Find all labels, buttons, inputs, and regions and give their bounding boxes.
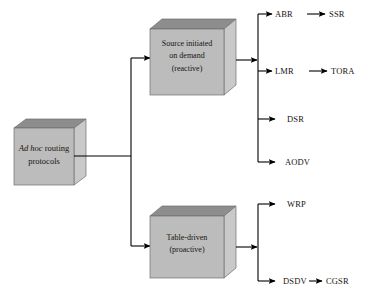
root-box-side-face	[74, 119, 86, 185]
root-box-top-face	[14, 119, 86, 128]
root-box[interactable]	[14, 119, 86, 185]
reactive-box-front-face	[150, 29, 224, 95]
protocol-label-ssr[interactable]: SSR	[329, 9, 345, 19]
protocol-label-aodv[interactable]: AODV	[285, 157, 310, 167]
proactive-box-top-face	[150, 206, 236, 216]
category-box-reactive[interactable]	[150, 19, 236, 95]
reactive-box-side-face	[224, 19, 236, 95]
reactive-box-top-face	[150, 19, 236, 29]
proactive-box-front-face	[150, 216, 224, 278]
category-box-proactive[interactable]	[150, 206, 236, 278]
protocol-label-tora[interactable]: TORA	[331, 66, 355, 76]
protocol-label-dsdv[interactable]: DSDV	[283, 276, 307, 286]
reactive-connector-group	[236, 14, 327, 162]
protocol-label-wrp[interactable]: WRP	[287, 199, 306, 209]
protocol-label-dsr[interactable]: DSR	[287, 114, 304, 124]
protocol-label-cgsr[interactable]: CGSR	[326, 276, 349, 286]
diagram-graphics	[0, 0, 369, 293]
proactive-box-side-face	[224, 206, 236, 278]
diagram-canvas: Ad hoc routing protocols Source initiate…	[0, 0, 369, 293]
root-box-front-face	[14, 128, 74, 185]
proactive-connector-group	[236, 204, 322, 281]
protocol-label-abr[interactable]: ABR	[275, 9, 293, 19]
protocol-label-lmr[interactable]: LMR	[275, 66, 294, 76]
